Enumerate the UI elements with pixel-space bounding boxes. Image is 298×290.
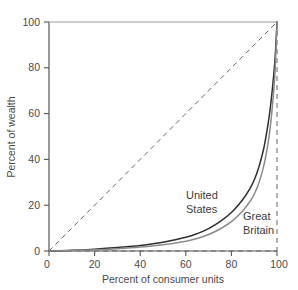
- x-tick-label-20: 20: [89, 258, 101, 270]
- annotation-great-britain-line1: Great: [243, 210, 271, 222]
- lorenz-curve-chart: 0 20 40 60 80 100 0 20 40 60 80 100 Perc…: [0, 0, 298, 290]
- annotation-united-states-line1: United: [186, 189, 218, 201]
- x-tick-label-100: 100: [270, 258, 288, 270]
- y-tick-label-100: 100: [22, 16, 40, 28]
- x-axis-ticks: [49, 251, 277, 256]
- annotation-united-states-line2: States: [186, 203, 218, 215]
- y-axis-title: Percent of wealth: [5, 96, 17, 177]
- chart-figure: 0 20 40 60 80 100 0 20 40 60 80 100 Perc…: [0, 0, 298, 290]
- annotation-great-britain-line2: Britain: [243, 224, 274, 236]
- y-tick-label-80: 80: [28, 61, 40, 73]
- y-tick-label-0: 0: [34, 245, 40, 257]
- y-axis-ticks: [44, 22, 49, 251]
- x-tick-label-80: 80: [226, 258, 238, 270]
- x-tick-label-60: 60: [180, 258, 192, 270]
- x-tick-label-0: 0: [44, 258, 50, 270]
- y-tick-label-20: 20: [28, 199, 40, 211]
- x-axis-title: Percent of consumer units: [102, 273, 224, 285]
- y-tick-label-40: 40: [28, 153, 40, 165]
- y-tick-label-60: 60: [28, 107, 40, 119]
- x-tick-label-40: 40: [134, 258, 146, 270]
